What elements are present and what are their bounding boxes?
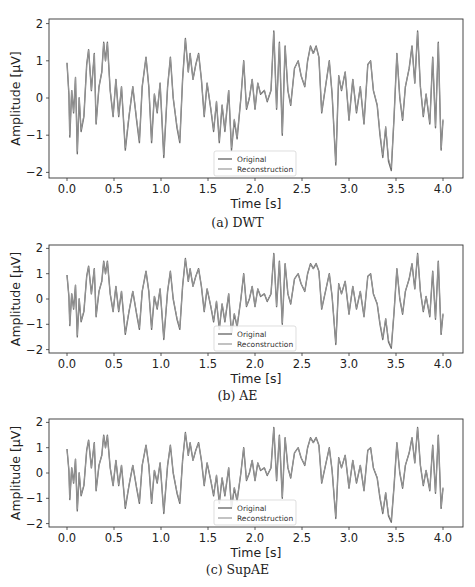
x-tick-label: 1.5	[199, 531, 217, 545]
x-tick-label: 1.0	[152, 531, 170, 545]
y-axis-label: Amplitude [µV]	[8, 426, 23, 520]
x-tick-label: 4.0	[434, 531, 452, 545]
y-tick-label: −1	[26, 491, 43, 505]
y-tick-label: −2	[26, 517, 43, 531]
x-tick-label: 3.0	[340, 531, 358, 545]
caption-supae: (c) SupAE	[0, 562, 475, 577]
x-tick-label: 0.5	[105, 531, 123, 545]
legend-label-reconstruction: Reconstruction	[237, 514, 293, 523]
chart-supae: 0.00.51.01.52.02.53.03.54.0Time [s]210−1…	[0, 0, 475, 587]
x-axis-label: Time [s]	[230, 545, 282, 560]
legend: OriginalReconstruction	[214, 500, 296, 525]
x-tick-label: 3.5	[387, 531, 405, 545]
x-tick-label: 2.5	[293, 531, 311, 545]
y-tick-label: 1	[36, 441, 43, 455]
y-tick-label: 0	[36, 466, 43, 480]
panel-supae: 0.00.51.01.52.02.53.03.54.0Time [s]210−1…	[0, 0, 475, 587]
legend-label-original: Original	[237, 504, 266, 513]
y-tick-label: 2	[36, 415, 43, 429]
x-tick-label: 0.0	[58, 531, 76, 545]
x-tick-label: 2.0	[246, 531, 264, 545]
